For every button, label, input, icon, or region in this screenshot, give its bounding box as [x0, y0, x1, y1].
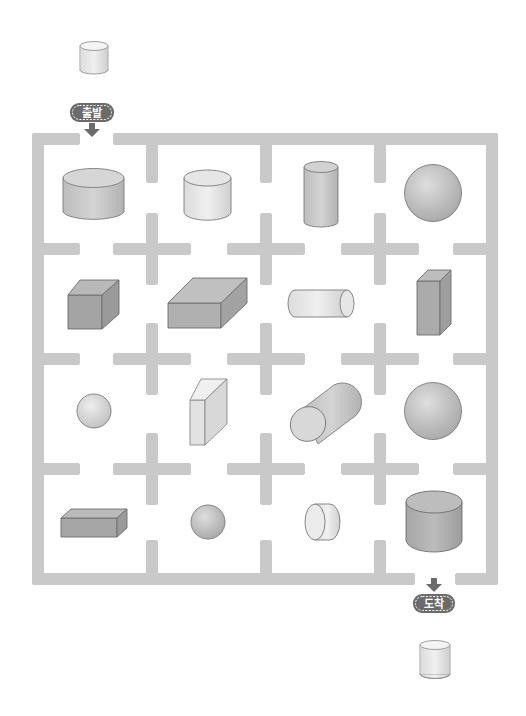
- end-label: 도착: [424, 597, 444, 611]
- start-label: 출발: [82, 106, 102, 120]
- start-shape-cylinder: [80, 42, 108, 75]
- shape-lying-cylinder: [288, 290, 354, 317]
- shape-cube: [68, 280, 119, 329]
- shape-sphere-2: [405, 383, 462, 440]
- shape-tilted-cylinder: [284, 383, 362, 448]
- end-shape-cylinder: [420, 641, 450, 679]
- maze-puzzle: 출발 도착: [0, 0, 526, 716]
- end-badge: 도착: [413, 594, 455, 613]
- shape-wide-cylinder: [63, 169, 124, 220]
- shape-disk-cylinder: [305, 504, 340, 540]
- shape-tall-box: [417, 270, 451, 335]
- shape-thin-slab: [190, 379, 227, 445]
- start-arrow-icon: [84, 123, 100, 137]
- shape-big-cylinder: [406, 491, 462, 552]
- shape-small-sphere-2: [191, 505, 225, 539]
- shape-long-box: [61, 509, 127, 537]
- shape-small-sphere: [77, 394, 111, 428]
- shape-flat-box: [168, 278, 247, 328]
- shape-cylinder: [184, 170, 231, 220]
- end-arrow-icon: [426, 578, 442, 592]
- shape-tall-cylinder: [304, 162, 338, 228]
- shape-sphere: [405, 165, 462, 222]
- start-badge: 출발: [70, 103, 114, 122]
